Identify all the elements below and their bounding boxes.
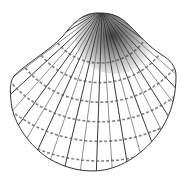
shell-drawing bbox=[0, 0, 185, 181]
shell-illustration bbox=[0, 0, 185, 181]
